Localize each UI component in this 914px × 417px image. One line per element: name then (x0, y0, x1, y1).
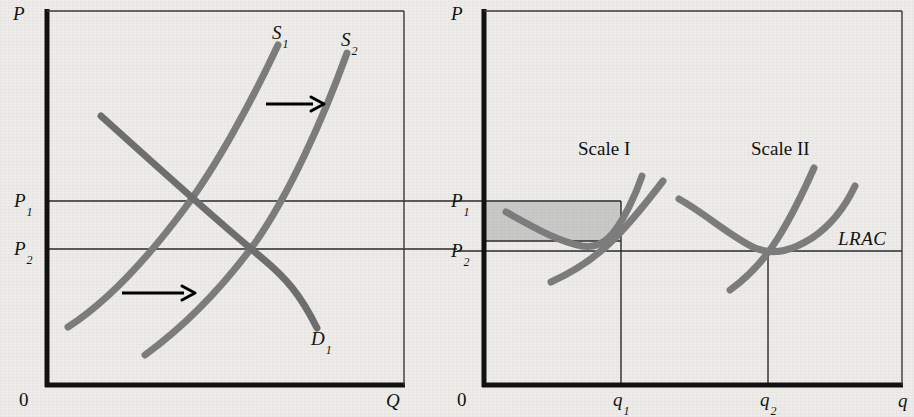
demand-curve-1-label: D1 (311, 329, 331, 352)
left-origin-label: 0 (19, 390, 29, 409)
left-x-axis-label: Q (386, 391, 400, 410)
left-price-label-p2: P2 (14, 239, 32, 262)
right-price-label-p1: P1 (451, 191, 469, 214)
right-price-label-p2: P2 (451, 241, 469, 264)
right-y-axis-label: P (451, 4, 463, 23)
supply-curve-2-label: S2 (341, 30, 357, 53)
right-origin-label: 0 (457, 390, 467, 409)
right-x-axis-label: q (898, 391, 908, 410)
right-panel: P 0 q P1 P2 q1 q2 Scale I Scale II LRAC (0, 0, 914, 417)
left-y-axis-label: P (13, 4, 25, 23)
figure-canvas: P 0 Q P1 P2 S1 S2 D1 (0, 0, 914, 417)
scale-1-label: Scale I (578, 139, 630, 158)
scale-2-ac-curve (679, 186, 855, 252)
quantity-label-q1: q1 (613, 390, 629, 413)
lrac-label: LRAC (838, 229, 886, 248)
supply-curve-1-label: S1 (272, 23, 288, 46)
left-price-label-p1: P1 (14, 191, 32, 214)
scale-2-label: Scale II (751, 139, 810, 158)
scale-2-mc-curve (730, 168, 814, 290)
quantity-label-q2: q2 (760, 390, 776, 413)
